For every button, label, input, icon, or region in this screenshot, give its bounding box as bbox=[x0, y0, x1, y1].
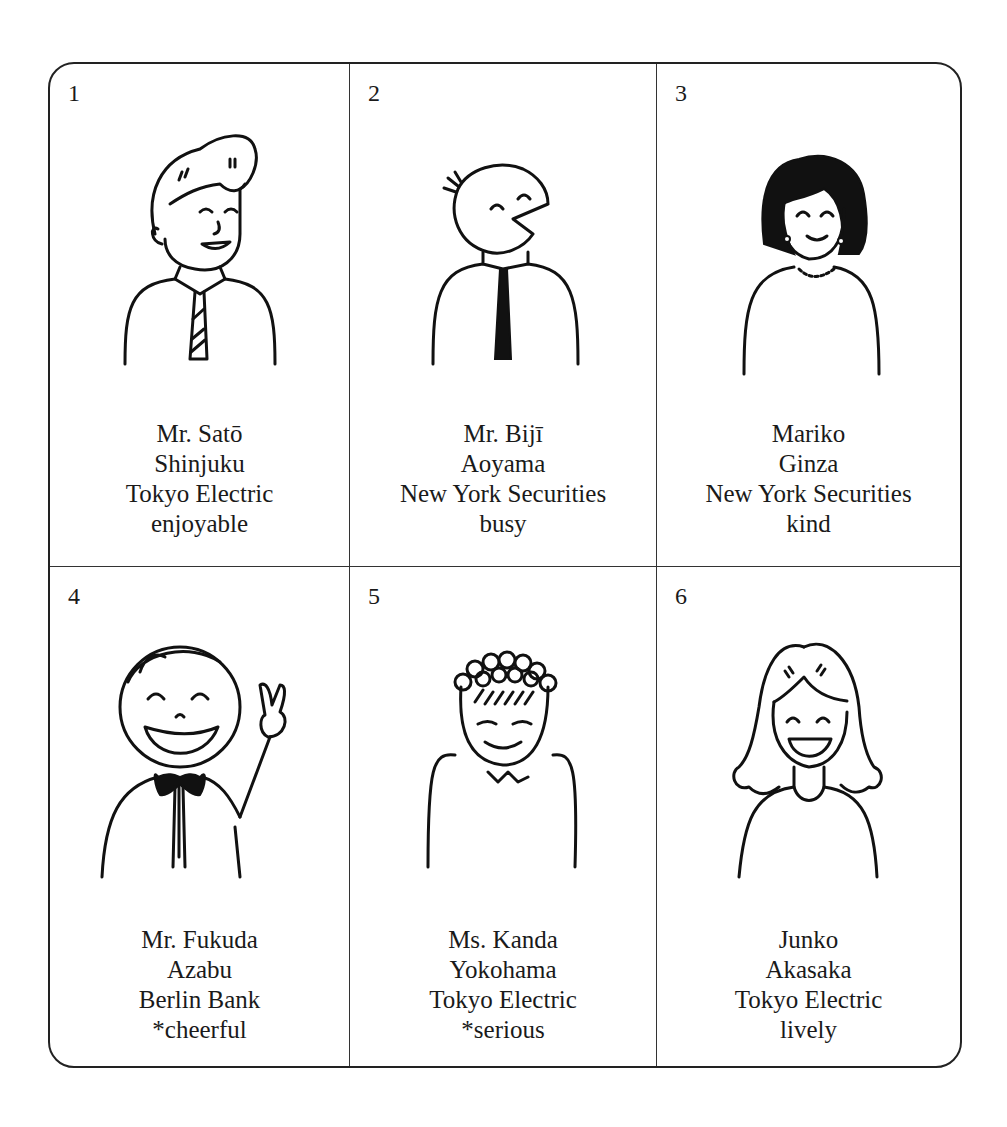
illustration-kanda bbox=[350, 627, 656, 907]
card-number: 4 bbox=[68, 583, 80, 610]
round-head-man-icon bbox=[403, 124, 603, 384]
card-number: 3 bbox=[675, 80, 687, 107]
illustration-fukuda bbox=[50, 627, 349, 907]
illustration-biji bbox=[350, 124, 656, 404]
person-company: Tokyo Electric bbox=[350, 985, 656, 1015]
person-name: Junko bbox=[657, 925, 960, 955]
illustration-mariko bbox=[657, 124, 960, 404]
card-4: 4 Mr. Fukuda Azabu Berlin Bank *cheerful bbox=[50, 567, 350, 1066]
card-info: Mr. Bijī Aoyama New York Securities busy bbox=[350, 419, 656, 539]
woman-dark-hair-icon bbox=[709, 124, 909, 384]
person-name: Mr. Satō bbox=[50, 419, 349, 449]
person-place: Yokohama bbox=[350, 955, 656, 985]
person-name: Mr. Fukuda bbox=[50, 925, 349, 955]
laughing-man-bow-tie-icon bbox=[80, 627, 320, 887]
person-place: Ginza bbox=[657, 449, 960, 479]
illustration-sato bbox=[50, 124, 349, 404]
person-trait: busy bbox=[350, 509, 656, 539]
person-trait: enjoyable bbox=[50, 509, 349, 539]
card-info: Ms. Kanda Yokohama Tokyo Electric *serio… bbox=[350, 925, 656, 1045]
person-name: Ms. Kanda bbox=[350, 925, 656, 955]
person-name: Mariko bbox=[657, 419, 960, 449]
person-company: Tokyo Electric bbox=[50, 479, 349, 509]
card-info: Mr. Satō Shinjuku Tokyo Electric enjoyab… bbox=[50, 419, 349, 539]
person-trait: kind bbox=[657, 509, 960, 539]
illustration-junko bbox=[657, 627, 960, 907]
person-place: Azabu bbox=[50, 955, 349, 985]
person-trait: *serious bbox=[350, 1015, 656, 1045]
card-number: 6 bbox=[675, 583, 687, 610]
card-info: Mr. Fukuda Azabu Berlin Bank *cheerful bbox=[50, 925, 349, 1045]
person-company: Tokyo Electric bbox=[657, 985, 960, 1015]
person-trait: lively bbox=[657, 1015, 960, 1045]
person-place: Shinjuku bbox=[50, 449, 349, 479]
laughing-woman-icon bbox=[709, 627, 909, 887]
curly-hair-person-icon bbox=[403, 627, 603, 887]
man-striped-tie-icon bbox=[100, 124, 300, 384]
card-5: 5 Ms. Kanda Yokohama Tokyo Electric bbox=[350, 567, 657, 1066]
person-place: Aoyama bbox=[350, 449, 656, 479]
card-1: 1 Mr. Satō Shinjuku Tokyo Electric enjoy… bbox=[50, 64, 350, 567]
card-number: 2 bbox=[368, 80, 380, 107]
card-info: Mariko Ginza New York Securities kind bbox=[657, 419, 960, 539]
person-company: New York Securities bbox=[350, 479, 656, 509]
card-info: Junko Akasaka Tokyo Electric lively bbox=[657, 925, 960, 1045]
card-number: 5 bbox=[368, 583, 380, 610]
card-number: 1 bbox=[68, 80, 80, 107]
card-3: 3 Mariko Ginza New York Securities kind bbox=[657, 64, 960, 567]
character-card-grid: 1 Mr. Satō Shinjuku Tokyo Electric enjoy… bbox=[48, 62, 962, 1068]
person-name: Mr. Bijī bbox=[350, 419, 656, 449]
person-trait: *cheerful bbox=[50, 1015, 349, 1045]
card-6: 6 Junko Akasaka Tokyo Electric lively bbox=[657, 567, 960, 1066]
card-2: 2 Mr. Bijī Aoyama New York Securities bu… bbox=[350, 64, 657, 567]
person-company: New York Securities bbox=[657, 479, 960, 509]
person-place: Akasaka bbox=[657, 955, 960, 985]
person-company: Berlin Bank bbox=[50, 985, 349, 1015]
